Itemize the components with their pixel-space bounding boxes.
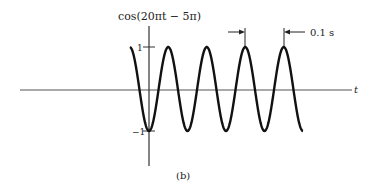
tick-label-pos-one: 1 bbox=[137, 43, 143, 53]
cosine-plot: cos(20πt − 5π) t 1 −1 0.1 s (b) bbox=[0, 0, 369, 188]
period-label: 0.1 s bbox=[310, 27, 334, 38]
tick-label-neg-one: −1 bbox=[132, 127, 145, 137]
arrowhead-left bbox=[239, 30, 245, 35]
figure-caption: (b) bbox=[176, 170, 190, 181]
arrowhead-right bbox=[284, 30, 290, 35]
cosine-curve bbox=[130, 47, 303, 131]
x-axis-label: t bbox=[354, 84, 359, 95]
y-axis-label: cos(20πt − 5π) bbox=[118, 10, 201, 23]
